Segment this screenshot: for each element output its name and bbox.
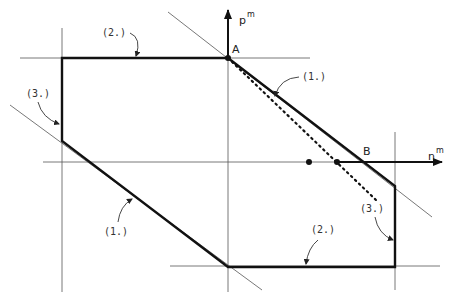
annotation-right-edge: (3.) (360, 203, 393, 240)
annotation-bottom-edge: (2.) (306, 224, 335, 264)
intersection-dot (306, 159, 312, 165)
point-a-label: A (232, 43, 240, 56)
feasible-region-diagram: p m n m A B (2.) (3.) (1.) (1.) (2.) (3.… (0, 0, 453, 296)
point-b-label: B (363, 145, 371, 158)
constraint-lines (10, 12, 440, 292)
p-axis-label: p (239, 14, 246, 27)
svg-text:(2.): (2.) (102, 27, 126, 38)
annotation-upper-diagonal: (1.) (275, 71, 326, 96)
n-axis-superscript: m (436, 146, 444, 155)
n-axis-label: n (428, 150, 435, 163)
svg-text:(1.): (1.) (104, 226, 128, 237)
annotation-top-edge: (2.) (102, 27, 138, 56)
svg-text:(1.): (1.) (302, 71, 326, 82)
svg-text:(3.): (3.) (26, 88, 50, 99)
svg-text:(2.): (2.) (311, 224, 335, 235)
annotation-lower-diagonal: (1.) (104, 199, 132, 237)
point-b-marker (334, 159, 340, 165)
svg-text:(3.): (3.) (360, 203, 384, 214)
point-a-marker (225, 55, 231, 61)
annotation-left-edge: (3.) (26, 88, 59, 124)
p-axis-superscript: m (247, 10, 255, 19)
